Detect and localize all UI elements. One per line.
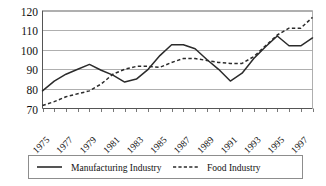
y-tick-label-110: 110	[21, 25, 38, 37]
grid-lines	[43, 12, 313, 90]
legend-label-food-industry: Food Industry	[207, 163, 261, 173]
y-axis-tick-labels: 708090100110120	[21, 6, 39, 116]
y-tick-label-100: 100	[21, 45, 39, 57]
chart-canvas: 708090100110120 197519771979198119831985…	[0, 0, 326, 186]
legend-label-manufacturing-industry: Manufacturing Industry	[71, 163, 162, 173]
x-tick-label-1985: 1985	[148, 135, 169, 156]
x-tick-label-1981: 1981	[101, 135, 122, 156]
x-tick-label-1977: 1977	[54, 135, 75, 156]
x-tick-label-1995: 1995	[266, 135, 287, 156]
y-tick-label-80: 80	[27, 84, 39, 96]
chart-legend: Manufacturing Industry Food Industry	[29, 156, 303, 179]
y-tick-label-90: 90	[27, 64, 39, 76]
x-tick-label-1993: 1993	[242, 135, 263, 156]
x-tick-label-1991: 1991	[219, 135, 240, 156]
plot-area-frame	[43, 11, 313, 109]
x-tick-label-1983: 1983	[125, 135, 146, 156]
x-axis-ticks	[44, 109, 314, 113]
x-tick-label-1997: 1997	[289, 135, 310, 156]
x-tick-label-1975: 1975	[31, 135, 52, 156]
x-tick-label-1979: 1979	[78, 135, 99, 156]
x-tick-label-1989: 1989	[195, 135, 216, 156]
x-tick-label-1987: 1987	[172, 135, 193, 156]
y-tick-label-70: 70	[27, 104, 39, 116]
series-line-manufacturing-industry	[43, 36, 313, 91]
y-tick-label-120: 120	[21, 6, 39, 18]
line-chart: 708090100110120 197519771979198119831985…	[0, 0, 326, 186]
x-axis-tick-labels: 1975197719791981198319851987198919911993…	[31, 135, 310, 156]
legend-box	[29, 156, 303, 179]
